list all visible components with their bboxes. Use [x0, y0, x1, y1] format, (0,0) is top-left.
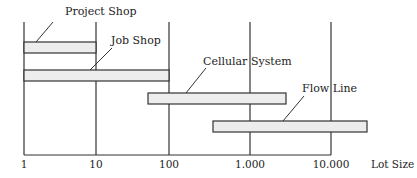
tick-label-4: 10.000	[313, 158, 350, 170]
tick-label-3: 1.000	[235, 158, 265, 170]
bar-cellular-system	[148, 93, 286, 104]
lot-size-range-chart: Project ShopJob ShopCellular SystemFlow …	[0, 0, 417, 178]
leader-project-shop	[36, 22, 53, 42]
x-axis-label: Lot Size	[371, 158, 414, 170]
label-job-shop: Job Shop	[110, 34, 161, 47]
bar-project-shop	[24, 42, 96, 53]
bar-flow-line	[213, 121, 367, 132]
label-cellular-system: Cellular System	[203, 55, 292, 68]
tick-label-1: 10	[89, 158, 102, 170]
bar-job-shop	[24, 70, 169, 81]
tick-label-2: 100	[159, 158, 179, 170]
tick-label-0: 1	[21, 158, 28, 170]
label-project-shop: Project Shop	[65, 5, 137, 18]
x-tick-labels: 1101001.00010.000	[21, 158, 350, 170]
label-flow-line: Flow Line	[302, 82, 357, 95]
leader-cellular-system	[186, 68, 206, 93]
